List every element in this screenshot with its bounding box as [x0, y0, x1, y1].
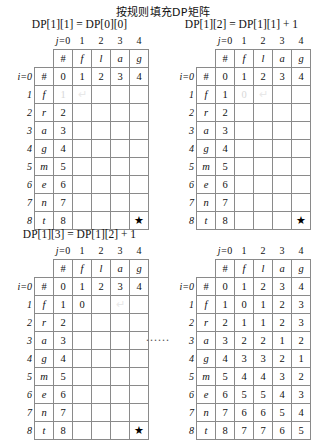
row-index-label: 5 [10, 158, 35, 176]
dp-cell: 3 [273, 68, 292, 86]
page-title: 按规则填充DP矩阵 [0, 3, 326, 19]
dp-cell [111, 212, 130, 230]
column-index-label: j=0 [216, 242, 235, 260]
dp-cell [111, 176, 130, 194]
dp-cell: 6 [54, 386, 73, 404]
dp-cell: 3 [273, 368, 292, 386]
dp-cell [111, 194, 130, 212]
spacer-cell [35, 50, 54, 68]
ellipsis-separator: ...... [146, 330, 170, 345]
row-header-cell: n [35, 194, 54, 212]
dp-cell [235, 104, 254, 122]
row-index-label: i=0 [172, 68, 197, 86]
table-row: 7n76654 [172, 404, 311, 422]
column-index-row: j=01234 [172, 32, 311, 50]
row-index-label: 8 [10, 422, 35, 440]
dp-cell [130, 194, 149, 212]
dp-table: j=01234#flagi=0#012341f101232r211233a322… [172, 242, 311, 440]
dp-cell [292, 140, 311, 158]
table-row: 4g4 [10, 140, 149, 158]
column-header-cell: l [92, 260, 111, 278]
dp-cell [92, 158, 111, 176]
spacer-cell [10, 32, 35, 50]
dp-cell: 4 [54, 350, 73, 368]
table-row: 8t8★ [172, 212, 311, 230]
row-index-label: 3 [10, 122, 35, 140]
dp-cell [73, 122, 92, 140]
panel-final-matrix: j=01234#flagi=0#012341f101232r211233a322… [172, 228, 311, 440]
dp-cell: 3 [235, 350, 254, 368]
dp-cell [235, 122, 254, 140]
column-header-cell: a [273, 260, 292, 278]
table-row: 6e65543 [172, 386, 311, 404]
dp-cell: 1 [254, 314, 273, 332]
dp-cell: 5 [54, 368, 73, 386]
dp-cell [73, 104, 92, 122]
dp-cell: 1 [292, 350, 311, 368]
dp-cell [111, 350, 130, 368]
dp-cell: 0 [235, 86, 254, 104]
dp-cell: 1 [73, 278, 92, 296]
row-header-cell: t [197, 212, 216, 230]
table-row: 3a3 [10, 332, 149, 350]
dp-cell [111, 86, 130, 104]
row-header-cell: m [35, 158, 54, 176]
column-index-label: 1 [235, 32, 254, 50]
column-index-label: 4 [292, 32, 311, 50]
dp-cell: 4 [273, 386, 292, 404]
dp-cell: 0 [216, 68, 235, 86]
spacer-cell [172, 242, 197, 260]
row-index-label: 5 [172, 158, 197, 176]
dp-cell: 6 [54, 176, 73, 194]
row-header-cell: g [197, 350, 216, 368]
dp-cell [273, 86, 292, 104]
column-header-cell: g [292, 50, 311, 68]
spacer-cell [10, 242, 35, 260]
dp-cell [130, 350, 149, 368]
row-header-cell: a [197, 332, 216, 350]
row-header-cell: n [35, 404, 54, 422]
dp-cell: 2 [254, 278, 273, 296]
dp-cell: 5 [273, 404, 292, 422]
row-index-label: 3 [10, 332, 35, 350]
table-row: 3a3 [10, 122, 149, 140]
row-header-cell: f [197, 86, 216, 104]
table-row: 2r2 [10, 314, 149, 332]
spacer-cell [35, 32, 54, 50]
dp-cell: 4 [216, 350, 235, 368]
dp-cell [111, 368, 130, 386]
dp-cell: 1 [216, 296, 235, 314]
dp-cell: 6 [216, 386, 235, 404]
dp-table-wrapper: j=01234#flagi=0#012341f101232r211233a322… [172, 242, 311, 440]
table-row: 2r21123 [172, 314, 311, 332]
column-index-label: 1 [73, 242, 92, 260]
dp-cell: 4 [130, 278, 149, 296]
dp-cell: 1 [254, 296, 273, 314]
row-header-cell: n [197, 404, 216, 422]
dp-table-wrapper: j=01234#flagi=0#012341f10↵2r23a34g45m56e… [10, 242, 149, 440]
dp-cell: 2 [54, 314, 73, 332]
dp-cell [92, 368, 111, 386]
table-row: 5m5 [10, 368, 149, 386]
dp-cell: 2 [254, 332, 273, 350]
row-index-label: 6 [10, 386, 35, 404]
dp-cell [292, 194, 311, 212]
dp-cell: 5 [235, 386, 254, 404]
column-index-label: 2 [92, 32, 111, 50]
dp-cell: 3 [54, 332, 73, 350]
dp-cell [130, 386, 149, 404]
dp-cell: 3 [111, 68, 130, 86]
dp-cell: 4 [292, 278, 311, 296]
row-header-cell: m [197, 158, 216, 176]
dp-cell: 4 [254, 368, 273, 386]
row-index-label: 2 [172, 104, 197, 122]
dp-cell [292, 86, 311, 104]
goal-star-cell: ★ [130, 422, 149, 440]
spacer-cell [10, 260, 35, 278]
row-header-cell: e [197, 386, 216, 404]
table-row: 7n7 [10, 404, 149, 422]
dp-cell [235, 212, 254, 230]
dp-cell [111, 122, 130, 140]
spacer-cell [197, 50, 216, 68]
column-header-row: #flag [10, 260, 149, 278]
